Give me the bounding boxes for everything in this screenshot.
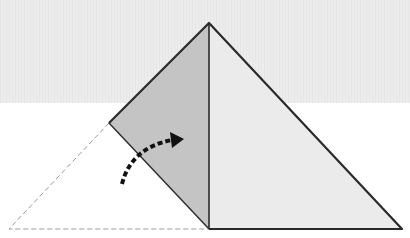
fold-illustration [0, 0, 410, 238]
folded-flap [109, 23, 209, 229]
origami-diagram [0, 0, 410, 238]
